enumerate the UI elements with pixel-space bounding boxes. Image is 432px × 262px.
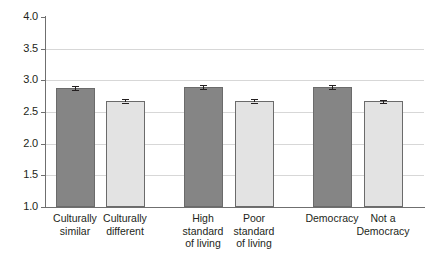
bar — [184, 87, 223, 207]
y-tick-label: 1.5 — [23, 169, 38, 180]
x-axis-label: Not a Democracy — [347, 212, 419, 237]
bar — [313, 87, 352, 207]
y-tick-label: 3.0 — [23, 74, 38, 85]
bar — [364, 101, 403, 207]
bar — [56, 88, 95, 207]
error-bar-cap-lower — [72, 90, 79, 91]
error-bar-cap-upper — [380, 100, 387, 101]
y-tick-label: 2.5 — [23, 106, 38, 117]
x-axis-line — [45, 207, 425, 208]
error-bar-cap-upper — [251, 99, 258, 100]
bar — [106, 101, 145, 207]
bar-chart: 4.03.53.02.52.01.51.0 Culturally similar… — [0, 0, 432, 262]
error-bar-cap-upper — [72, 86, 79, 87]
error-bar-cap-upper — [122, 99, 129, 100]
y-tick-label: 1.0 — [23, 201, 38, 212]
y-tick-label: 3.5 — [23, 43, 38, 54]
plot-area — [46, 17, 424, 207]
error-bar-cap-lower — [380, 103, 387, 104]
y-tick-mark — [41, 207, 46, 208]
error-bar-cap-upper — [329, 85, 336, 86]
x-axis-label: Culturally different — [89, 212, 161, 237]
x-axis-label: Poor standard of living — [218, 212, 290, 250]
error-bar-cap-lower — [329, 89, 336, 90]
error-bar-cap-lower — [122, 103, 129, 104]
y-tick-label: 2.0 — [23, 138, 38, 149]
bar — [235, 101, 274, 207]
y-tick-label: 4.0 — [23, 11, 38, 22]
error-bar-cap-lower — [251, 103, 258, 104]
error-bar-cap-upper — [200, 85, 207, 86]
error-bar-cap-lower — [200, 89, 207, 90]
